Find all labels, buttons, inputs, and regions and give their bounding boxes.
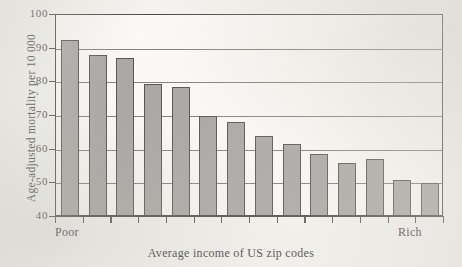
- bar: [338, 163, 356, 215]
- y-axis-title: Age-adjusted mortality per 10 000: [25, 18, 37, 218]
- bar: [61, 40, 79, 215]
- plot-area: [55, 14, 443, 216]
- y-axis-tick: [49, 115, 56, 116]
- bar: [283, 144, 301, 215]
- y-axis-tick: [49, 81, 56, 82]
- x-axis-tick: [388, 217, 389, 223]
- y-axis-tick: [49, 149, 56, 150]
- x-axis-tick: [55, 217, 56, 223]
- chart-screenshot: 405060708090100 Age-adjusted mortality p…: [0, 0, 462, 267]
- x-axis-tick: [415, 217, 416, 223]
- x-axis-tick: [304, 217, 305, 223]
- x-axis-label-poor: Poor: [55, 225, 79, 240]
- x-axis-title: Average income of US zip codes: [0, 246, 462, 261]
- bar: [310, 154, 328, 215]
- bar: [172, 87, 190, 215]
- bar: [421, 183, 439, 215]
- plot-inner: [56, 15, 442, 215]
- bar: [199, 116, 217, 215]
- x-axis-label-rich: Rich: [398, 225, 422, 240]
- x-axis-tick: [138, 217, 139, 223]
- x-axis-tick: [221, 217, 222, 223]
- y-axis-tick: [49, 48, 56, 49]
- x-axis-tick: [194, 217, 195, 223]
- bar: [116, 58, 134, 215]
- bar: [227, 122, 245, 215]
- bar: [144, 84, 162, 215]
- bar: [89, 55, 107, 215]
- x-axis-tick: [277, 217, 278, 223]
- x-axis-tick: [83, 217, 84, 223]
- x-axis-tick: [360, 217, 361, 223]
- bar: [393, 180, 411, 215]
- x-axis-tick: [332, 217, 333, 223]
- x-axis-tick: [166, 217, 167, 223]
- y-axis-tick: [49, 14, 56, 15]
- x-axis-tick: [110, 217, 111, 223]
- bar: [255, 136, 273, 215]
- x-axis-tick: [443, 217, 444, 223]
- x-axis-tick: [249, 217, 250, 223]
- y-axis-tick: [49, 182, 56, 183]
- bars-layer: [56, 15, 442, 215]
- bar: [366, 159, 384, 215]
